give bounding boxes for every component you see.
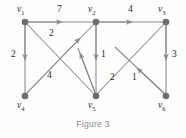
- node-v4[interactable]: [22, 93, 29, 100]
- edge-v6-v3-arrow: [137, 68, 166, 95]
- edge-weight-v1-v2: 7: [57, 5, 62, 15]
- edge-weight-v2-v5: 1: [101, 50, 106, 60]
- edge-weight-v1-v4: 2: [11, 50, 16, 60]
- node-label-v2: v2: [88, 5, 95, 16]
- figure-container: v1 v2 v3 v4 v5 v6 7 4 2 2 4 1 2 1 3 Figu…: [0, 0, 186, 138]
- edge-weight-v6-v2: 1: [132, 73, 137, 83]
- node-v2[interactable]: [93, 19, 100, 26]
- edge-weight-v5-v3: 2: [110, 73, 115, 83]
- edge-weight-v4-v2: 4: [47, 71, 52, 81]
- edge-v4-v2-arrow: [25, 38, 80, 95]
- edge-weight-v2-v3: 4: [128, 5, 133, 15]
- node-label-v5: v5: [88, 101, 95, 112]
- node-v3[interactable]: [163, 19, 170, 26]
- edge-weight-v3-v6: 3: [172, 50, 177, 60]
- node-label-v6: v6: [158, 101, 165, 112]
- edge-v5-v2-arrow: [80, 53, 96, 95]
- edge-layer: [25, 22, 166, 95]
- node-v1[interactable]: [22, 19, 29, 26]
- graph-canvas: [0, 0, 186, 138]
- node-v6[interactable]: [163, 93, 170, 100]
- edge-weight-v1-v5: 2: [49, 29, 54, 39]
- node-label-v3: v3: [158, 5, 165, 16]
- node-label-v1: v1: [17, 5, 24, 16]
- node-v5[interactable]: [93, 93, 100, 100]
- figure-caption: Figure 3: [0, 119, 186, 129]
- node-label-v4: v4: [17, 101, 24, 112]
